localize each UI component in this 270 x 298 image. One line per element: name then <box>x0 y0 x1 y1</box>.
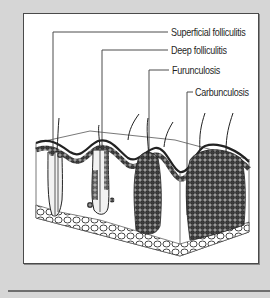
surface-hairs <box>128 114 173 147</box>
carbunculosis-abscess <box>186 150 245 240</box>
label-deep-folliculitis: Deep folliculitis <box>171 44 227 56</box>
follicle-deep <box>87 125 115 214</box>
label-carbunculosis: Carbunculosis <box>195 86 249 98</box>
bottom-divider <box>8 290 270 292</box>
label-superficial-folliculitis: Superficial folliculitis <box>171 26 246 38</box>
furunculosis-abscess <box>134 152 161 234</box>
skin-cross-section-illustration <box>0 0 270 298</box>
follicle-superficial <box>48 118 63 216</box>
label-furunculosis: Furunculosis <box>172 64 220 76</box>
